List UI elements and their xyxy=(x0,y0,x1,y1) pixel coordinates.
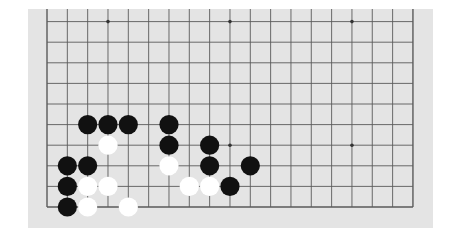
black-stone[interactable] xyxy=(200,156,219,175)
white-stone[interactable] xyxy=(78,197,97,216)
white-stone[interactable] xyxy=(98,177,117,196)
black-stone[interactable] xyxy=(78,115,97,134)
white-stone[interactable] xyxy=(78,177,97,196)
white-stone[interactable] xyxy=(180,177,199,196)
star-point-icon xyxy=(350,20,354,24)
black-stone[interactable] xyxy=(220,177,239,196)
white-stone[interactable] xyxy=(98,136,117,155)
black-stone[interactable] xyxy=(78,156,97,175)
black-stone[interactable] xyxy=(159,115,178,134)
black-stone[interactable] xyxy=(58,177,77,196)
black-stone[interactable] xyxy=(119,115,138,134)
black-stone[interactable] xyxy=(58,156,77,175)
star-point-icon xyxy=(228,20,232,24)
white-stone[interactable] xyxy=(159,156,178,175)
go-board-grid[interactable] xyxy=(0,0,451,236)
black-stone[interactable] xyxy=(98,115,117,134)
black-stone[interactable] xyxy=(159,136,178,155)
star-point-icon xyxy=(228,143,232,147)
star-point-icon xyxy=(350,143,354,147)
black-stone[interactable] xyxy=(200,136,219,155)
black-stone[interactable] xyxy=(58,197,77,216)
white-stone[interactable] xyxy=(200,177,219,196)
black-stone[interactable] xyxy=(241,156,260,175)
star-point-icon xyxy=(106,20,110,24)
white-stone[interactable] xyxy=(119,197,138,216)
